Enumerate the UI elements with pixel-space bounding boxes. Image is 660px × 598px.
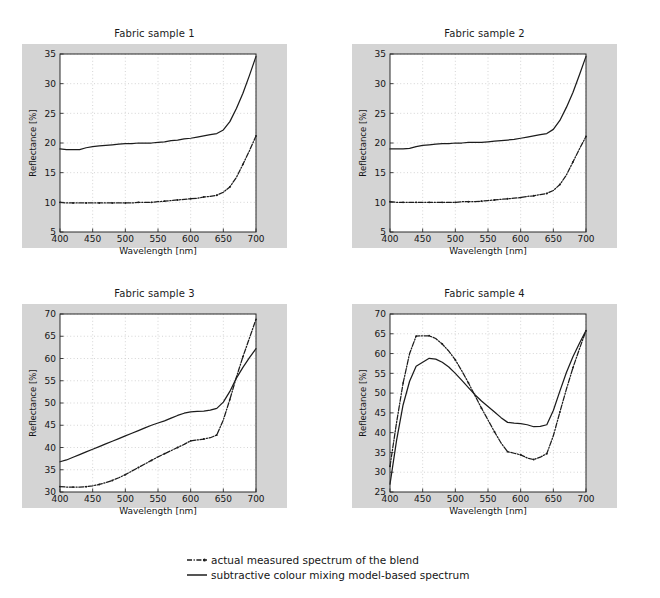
- series-marker: [72, 202, 74, 204]
- chart-title-2: Fabric sample 2: [352, 28, 617, 39]
- series-marker: [137, 201, 139, 203]
- x-axis-label: Wavelength [nm]: [449, 506, 527, 516]
- series-marker: [507, 198, 509, 200]
- y-tick-label: 45: [375, 408, 386, 418]
- x-axis-label: Wavelength [nm]: [449, 246, 527, 256]
- figure-legend: actual measured spectrum of the blend su…: [186, 552, 586, 582]
- x-tick-label: 600: [512, 494, 529, 504]
- x-tick-label: 500: [117, 494, 134, 504]
- series-marker: [203, 196, 205, 198]
- series-marker: [572, 367, 574, 369]
- y-tick-label: 15: [375, 168, 386, 178]
- x-tick-label: 450: [84, 234, 101, 244]
- series-marker: [124, 202, 126, 204]
- series-marker: [111, 202, 113, 204]
- series-marker: [428, 201, 430, 203]
- y-tick-label: 60: [45, 354, 57, 364]
- x-tick-label: 450: [84, 494, 101, 504]
- series-marker: [467, 201, 469, 203]
- series-marker: [111, 479, 113, 481]
- series-marker: [190, 198, 192, 200]
- series-marker: [242, 163, 244, 165]
- series-marker: [229, 398, 231, 400]
- series-marker: [559, 184, 561, 186]
- y-tick-label: 20: [45, 138, 57, 148]
- y-tick-label: 30: [45, 487, 57, 497]
- legend-label-measured: actual measured spectrum of the blend: [211, 554, 419, 566]
- x-tick-label: 450: [414, 234, 431, 244]
- x-tick-label: 650: [215, 234, 232, 244]
- series-marker: [72, 486, 74, 488]
- x-tick-label: 650: [215, 494, 232, 504]
- series-marker: [137, 467, 139, 469]
- chart-panel-fabric-sample-3: Fabric sample 3 400450500550600650700303…: [22, 288, 287, 544]
- series-marker: [507, 451, 509, 453]
- series-marker: [124, 474, 126, 476]
- series-marker: [177, 447, 179, 449]
- x-tick-label: 650: [545, 494, 562, 504]
- y-tick-label: 50: [375, 388, 387, 398]
- series-marker: [98, 483, 100, 485]
- series-marker: [415, 201, 417, 203]
- series-marker: [415, 335, 417, 337]
- series-marker: [533, 459, 535, 461]
- series-marker: [494, 199, 496, 201]
- series-marker: [441, 201, 443, 203]
- chart-panel-fabric-sample-4: Fabric sample 4 400450500550600650700253…: [352, 288, 617, 544]
- y-tick-label: 5: [380, 227, 386, 237]
- x-tick-label: 500: [447, 494, 464, 504]
- x-tick-label: 550: [149, 494, 166, 504]
- y-tick-label: 30: [45, 79, 57, 89]
- series-marker: [454, 359, 456, 361]
- series-marker: [546, 192, 548, 194]
- plot-svg: 4004505005506006507005101520253035Wavele…: [22, 44, 287, 284]
- series-marker: [98, 202, 100, 204]
- x-tick-label: 550: [479, 494, 496, 504]
- legend-label-model: subtractive colour mixing model-based sp…: [211, 569, 469, 581]
- x-axis-label: Wavelength [nm]: [119, 506, 197, 516]
- y-tick-label: 15: [45, 168, 56, 178]
- series-marker: [520, 197, 522, 199]
- x-tick-label: 700: [577, 234, 594, 244]
- series-marker: [520, 454, 522, 456]
- y-tick-label: 10: [375, 198, 387, 208]
- y-tick-label: 70: [45, 309, 57, 319]
- series-marker: [190, 440, 192, 442]
- y-tick-label: 40: [45, 443, 57, 453]
- y-tick-label: 25: [375, 109, 386, 119]
- y-tick-label: 35: [375, 448, 386, 458]
- series-marker: [177, 199, 179, 201]
- y-tick-label: 40: [375, 428, 387, 438]
- legend-item-model: subtractive colour mixing model-based sp…: [186, 567, 586, 582]
- x-tick-label: 550: [149, 234, 166, 244]
- x-tick-label: 650: [545, 234, 562, 244]
- series-marker: [203, 438, 205, 440]
- series-marker: [151, 201, 153, 203]
- y-tick-label: 55: [375, 369, 386, 379]
- y-tick-label: 65: [375, 329, 386, 339]
- x-tick-label: 500: [117, 234, 134, 244]
- axes-2: 4004505005506006507005101520253035Wavele…: [352, 44, 617, 284]
- y-tick-label: 35: [375, 49, 386, 59]
- series-marker: [402, 382, 404, 384]
- axes-3: 400450500550600650700303540455055606570W…: [22, 304, 287, 544]
- y-tick-label: 10: [45, 198, 57, 208]
- x-tick-label: 500: [447, 234, 464, 244]
- y-tick-label: 50: [45, 398, 57, 408]
- plot-svg: 400450500550600650700303540455055606570W…: [22, 304, 287, 544]
- series-marker: [216, 434, 218, 436]
- series-marker: [559, 411, 561, 413]
- series-marker: [467, 382, 469, 384]
- y-axis-label: Reflectance [%]: [28, 109, 38, 176]
- legend-item-measured: actual measured spectrum of the blend: [186, 552, 586, 567]
- x-tick-label: 600: [512, 234, 529, 244]
- x-tick-label: 700: [577, 494, 594, 504]
- series-marker: [454, 201, 456, 203]
- series-marker: [441, 343, 443, 345]
- chart-panel-fabric-sample-2: Fabric sample 2 400450500550600650700510…: [352, 28, 617, 284]
- series-marker: [229, 186, 231, 188]
- dashdot-line-key: [186, 554, 208, 566]
- chart-title-3: Fabric sample 3: [22, 288, 287, 299]
- plot-svg: 4004505005506006507005101520253035Wavele…: [352, 44, 617, 284]
- x-tick-label: 450: [414, 494, 431, 504]
